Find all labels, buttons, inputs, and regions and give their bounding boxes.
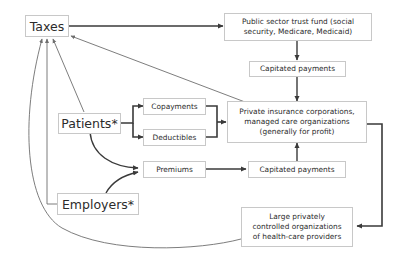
- taxes-label: Taxes: [30, 19, 64, 34]
- private-insurance-label: Private insurance corporations, managed …: [239, 107, 354, 137]
- edge-private-insurance-to-taxes: [71, 36, 245, 102]
- providers-node: Large privately controlled organizations…: [241, 207, 353, 247]
- edge-employers-to-premiums: [106, 172, 138, 193]
- trust-fund-node: Public sector trust fund (social securit…: [224, 13, 372, 41]
- edge-patients-to-copayments: [121, 106, 143, 123]
- premiums-node: Premiums: [143, 161, 206, 178]
- taxes-node: Taxes: [25, 15, 69, 37]
- deductibles-node: Deductibles: [143, 129, 206, 146]
- capitated-bottom-label: Capitated payments: [259, 165, 334, 175]
- edge-copayments-to-private-insurance: [206, 106, 217, 137]
- patients-node: Patients*: [58, 113, 121, 134]
- edge-employers-to-taxes: [47, 39, 57, 204]
- copayments-label: Copayments: [151, 102, 197, 112]
- premiums-label: Premiums: [156, 165, 193, 175]
- employers-node: Employers*: [57, 193, 139, 215]
- private-insurance-node: Private insurance corporations, managed …: [227, 101, 367, 143]
- patients-label: Patients*: [61, 116, 117, 131]
- deductibles-label: Deductibles: [153, 133, 197, 143]
- edge-patients-to-deductibles: [133, 123, 143, 137]
- providers-label: Large privately controlled organizations…: [252, 212, 341, 242]
- trust-fund-label: Public sector trust fund (social securit…: [242, 17, 354, 37]
- copayments-node: Copayments: [143, 98, 206, 115]
- capitated-payments-bottom-node: Capitated payments: [248, 161, 346, 178]
- employers-label: Employers*: [62, 197, 134, 212]
- capitated-payments-top-node: Capitated payments: [249, 61, 346, 77]
- edge-patients-to-taxes: [53, 39, 84, 112]
- edge-patients-to-premiums: [90, 132, 138, 168]
- edge-providers-to-taxes: [29, 39, 241, 248]
- capitated-top-label: Capitated payments: [260, 64, 335, 74]
